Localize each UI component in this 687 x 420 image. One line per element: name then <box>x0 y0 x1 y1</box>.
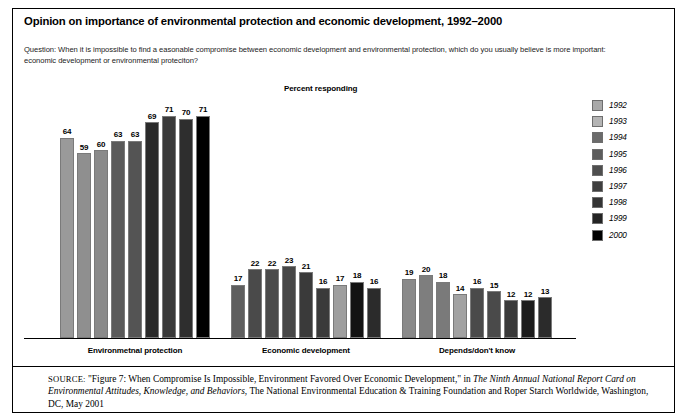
bar-item[interactable]: 22 <box>265 88 279 338</box>
legend-swatch-icon <box>592 230 603 241</box>
bar-item[interactable]: 63 <box>128 88 142 338</box>
bar-item[interactable]: 17 <box>333 88 347 338</box>
bar-item[interactable]: 16 <box>470 88 484 338</box>
bar-value-label: 18 <box>439 271 448 280</box>
bar-item[interactable]: 18 <box>436 88 450 338</box>
bar-value-label: 12 <box>507 290 516 299</box>
bar-value-label: 17 <box>234 274 243 283</box>
legend-item: 1998 <box>592 197 627 208</box>
bar-item[interactable]: 71 <box>162 88 176 338</box>
bar[interactable] <box>402 279 416 338</box>
bar[interactable] <box>162 116 176 338</box>
bar-item[interactable]: 18 <box>350 88 364 338</box>
legend-swatch-icon <box>592 132 603 143</box>
bar-value-label: 23 <box>285 256 294 265</box>
bar[interactable] <box>77 153 91 338</box>
bar-value-label: 12 <box>524 290 533 299</box>
legend-item: 1994 <box>592 132 627 143</box>
bar-item[interactable]: 70 <box>179 88 193 338</box>
bar[interactable] <box>504 300 518 338</box>
bar-value-label: 64 <box>63 127 72 136</box>
legend-item: 1999 <box>592 213 627 224</box>
bar[interactable] <box>179 119 193 338</box>
bar[interactable] <box>60 138 74 338</box>
bar-value-label: 71 <box>199 105 208 114</box>
bar[interactable] <box>145 122 159 338</box>
bar-item[interactable]: 17 <box>231 88 245 338</box>
source-label: SOURCE: <box>48 374 86 384</box>
bar[interactable] <box>94 150 108 338</box>
bar-group: 645960636369717071 <box>60 88 210 338</box>
bar[interactable] <box>333 285 347 338</box>
bar-item[interactable]: 69 <box>145 88 159 338</box>
bar-item[interactable]: 16 <box>367 88 381 338</box>
bar-item[interactable]: 22 <box>248 88 262 338</box>
legend-item: 1997 <box>592 181 627 192</box>
bar[interactable] <box>436 282 450 338</box>
bar[interactable] <box>248 269 262 338</box>
x-axis-category-label: Economic development <box>262 346 350 355</box>
legend-swatch-icon <box>592 213 603 224</box>
frame-border-top <box>12 8 675 9</box>
legend-swatch-icon <box>592 116 603 127</box>
legend-swatch-icon <box>592 165 603 176</box>
bar-item[interactable]: 15 <box>487 88 501 338</box>
source-divider <box>12 366 675 367</box>
legend-swatch-icon <box>592 197 603 208</box>
bar-item[interactable]: 64 <box>60 88 74 338</box>
bar-item[interactable]: 12 <box>504 88 518 338</box>
legend-item: 2000 <box>592 230 627 241</box>
bar[interactable] <box>487 291 501 338</box>
bar[interactable] <box>231 285 245 338</box>
bar[interactable] <box>470 288 484 338</box>
bar-value-label: 60 <box>97 140 106 149</box>
bar-item[interactable]: 12 <box>521 88 535 338</box>
bar[interactable] <box>538 297 552 338</box>
bar-item[interactable]: 21 <box>299 88 313 338</box>
bar-value-label: 69 <box>148 112 157 121</box>
bar-group: 192018141615121213 <box>402 88 552 338</box>
bar-item[interactable]: 23 <box>282 88 296 338</box>
bar[interactable] <box>111 141 125 338</box>
legend-item: 1996 <box>592 165 627 176</box>
legend-item: 1993 <box>592 116 627 127</box>
bar[interactable] <box>265 269 279 338</box>
bar[interactable] <box>453 294 467 338</box>
bar-value-label: 63 <box>131 130 140 139</box>
legend-item: 1992 <box>592 100 627 111</box>
frame-border-left <box>12 8 13 412</box>
bar-item[interactable]: 63 <box>111 88 125 338</box>
bar[interactable] <box>367 288 381 338</box>
bar[interactable] <box>299 272 313 338</box>
bar-item[interactable]: 13 <box>538 88 552 338</box>
legend-swatch-icon <box>592 100 603 111</box>
bar-value-label: 13 <box>541 287 550 296</box>
bar[interactable] <box>282 266 296 338</box>
bar-value-label: 16 <box>473 277 482 286</box>
bar-item[interactable]: 16 <box>316 88 330 338</box>
x-axis-category-label: Environmetnal protection <box>88 346 183 355</box>
bar[interactable] <box>196 116 210 338</box>
source-note: SOURCE: "Figure 7: When Compromise Is Im… <box>48 373 663 410</box>
bar[interactable] <box>128 141 142 338</box>
bar-item[interactable]: 71 <box>196 88 210 338</box>
bar[interactable] <box>521 300 535 338</box>
bar[interactable] <box>350 282 364 338</box>
legend-label: 1997 <box>609 182 627 191</box>
legend-item: 1995 <box>592 149 627 160</box>
bar-item[interactable]: 14 <box>453 88 467 338</box>
legend-label: 1999 <box>609 214 627 223</box>
legend-label: 1995 <box>609 150 627 159</box>
bar[interactable] <box>316 288 330 338</box>
bar[interactable] <box>419 275 433 338</box>
bar-item[interactable]: 59 <box>77 88 91 338</box>
legend-label: 2000 <box>609 231 627 240</box>
bar-value-label: 16 <box>370 277 379 286</box>
bar-value-label: 63 <box>114 130 123 139</box>
legend-label: 1992 <box>609 101 627 110</box>
bar-item[interactable]: 60 <box>94 88 108 338</box>
legend-label: 1993 <box>609 117 627 126</box>
bar-item[interactable]: 19 <box>402 88 416 338</box>
bar-item[interactable]: 20 <box>419 88 433 338</box>
bar-value-label: 14 <box>456 284 465 293</box>
